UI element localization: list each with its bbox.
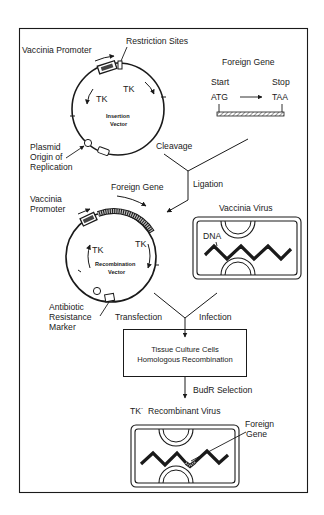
antibiotic-label-1: Antibiotic bbox=[49, 302, 85, 312]
culture-line-1: Tissue Culture Cells bbox=[151, 345, 219, 354]
rv-origin-icon bbox=[93, 287, 100, 294]
ligation-label: Ligation bbox=[193, 179, 223, 189]
rv-tk-left-label: TK bbox=[92, 245, 104, 255]
rv-promoter-label-2: Promoter bbox=[30, 204, 65, 214]
transfection-label: Transfection bbox=[115, 312, 162, 322]
vaccinia-promoter-label: Vaccinia Promoter bbox=[22, 45, 92, 55]
foreign-gene-callout-1: Foreign bbox=[245, 419, 274, 429]
budr-selection-step: BudR Selection bbox=[185, 377, 252, 398]
restriction-site-marker bbox=[118, 61, 122, 69]
antibiotic-label-2: Resistance bbox=[49, 312, 92, 322]
origin-icon bbox=[84, 139, 91, 146]
foreign-gene-panel: Foreign Gene Start Stop ATG TAA bbox=[211, 57, 290, 116]
tk-right-label: TK bbox=[123, 84, 135, 94]
transfection-infection-step: Transfection Infection bbox=[115, 293, 232, 337]
tk-superscript: - bbox=[141, 405, 143, 411]
promoter-box-icon bbox=[97, 61, 117, 74]
foreign-gene-dna-segment bbox=[217, 112, 284, 116]
insertion-vector: Vaccinia Promoter Restriction Sites TK T… bbox=[22, 36, 188, 172]
plasmid-origin-label-1: Plasmid bbox=[30, 142, 61, 152]
recombination-vector-label-1: Recombination bbox=[95, 261, 136, 267]
rv-tk-right-label: TK bbox=[135, 239, 147, 249]
recombination-vector-label-2: Vector bbox=[108, 269, 126, 275]
start-codon: ATG bbox=[211, 92, 228, 102]
foreign-gene-callout-2: Gene bbox=[246, 429, 267, 439]
rv-foreign-gene-label: Foreign Gene bbox=[111, 182, 164, 192]
recombinant-dna-zigzag bbox=[141, 453, 186, 465]
inserted-foreign-gene-arc bbox=[98, 211, 152, 232]
stop-codon: TAA bbox=[272, 92, 288, 102]
infection-label: Infection bbox=[199, 312, 232, 322]
tk-left-label: TK bbox=[96, 94, 108, 104]
cleavage-ligation-step: Cleavage Ligation bbox=[156, 139, 248, 212]
dna-label: DNA bbox=[203, 231, 221, 241]
plasmid-origin-label-2: Origin of bbox=[30, 152, 63, 162]
plasmid-origin-label-3: Replication bbox=[30, 162, 73, 172]
recombinant-virus: TK-Recombinant Virus Foreign Gene bbox=[130, 405, 274, 487]
culture-line-2: Homologous Recombination bbox=[137, 355, 232, 364]
insertion-vector-label-2: Vector bbox=[110, 121, 128, 127]
antibiotic-marker-icon bbox=[105, 293, 115, 301]
vaccinia-virus-title: Vaccinia Virus bbox=[219, 203, 273, 213]
rv-promoter-box-icon bbox=[80, 212, 97, 226]
stop-label: Stop bbox=[272, 77, 290, 87]
start-label: Start bbox=[211, 77, 230, 87]
antibiotic-label-3: Marker bbox=[49, 322, 76, 332]
virus-upper-lobe bbox=[221, 221, 255, 238]
recombination-vector-plasmid-ring bbox=[66, 212, 156, 302]
virus-lower-lobe bbox=[221, 258, 255, 275]
recombinant-virus-title: TK-Recombinant Virus bbox=[130, 405, 220, 416]
tk-prefix: TK bbox=[130, 406, 141, 416]
recombinant-vaccinia-diagram: Vaccinia Promoter Restriction Sites TK T… bbox=[0, 0, 324, 515]
recombinant-virus-suffix: Recombinant Virus bbox=[148, 406, 220, 416]
budr-selection-label: BudR Selection bbox=[193, 385, 252, 395]
inserted-gene-segment bbox=[186, 462, 195, 466]
foreign-gene-title: Foreign Gene bbox=[222, 57, 275, 67]
restriction-sites-label: Restriction Sites bbox=[126, 36, 188, 46]
viral-dna-zigzag bbox=[205, 246, 291, 259]
vaccinia-virus: Vaccinia Virus DNA bbox=[193, 203, 301, 279]
cleavage-label: Cleavage bbox=[156, 141, 193, 151]
marker-icon bbox=[97, 146, 109, 155]
recombination-vector: Foreign Gene Vaccinia Promoter TK TK Rec… bbox=[30, 182, 164, 332]
insertion-vector-label-1: Insertion bbox=[106, 113, 130, 119]
rv-promoter-label-1: Vaccinia bbox=[30, 194, 62, 204]
